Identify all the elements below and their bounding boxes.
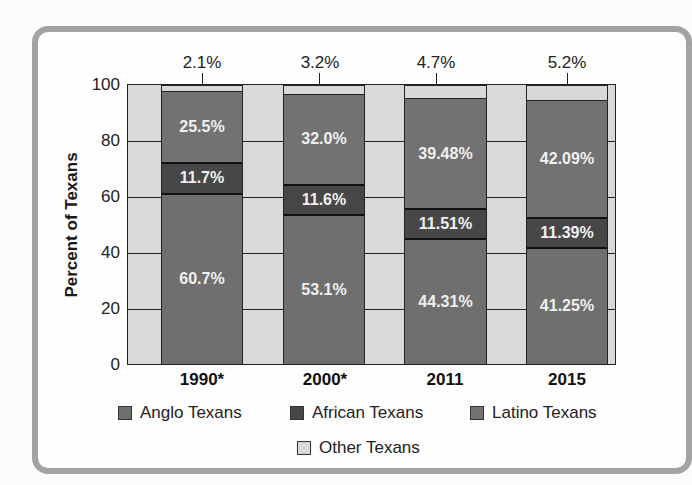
value-label: 41.25% <box>540 297 594 315</box>
x-label-2011: 2011 <box>400 370 490 390</box>
segment-anglo-2000: 53.1% <box>284 216 364 364</box>
value-label: 42.09% <box>540 150 594 168</box>
plot-area: 60.7% 11.7% 25.5% 53.1% 11.6% 32.0% 44.3… <box>127 84 616 365</box>
y-axis-label: Percent of Texans <box>62 125 82 325</box>
segment-latino-1990: 25.5% <box>162 91 242 162</box>
other-label-2011: 4.7% <box>396 53 476 73</box>
value-label: 60.7% <box>179 270 224 288</box>
segment-latino-2015: 42.09% <box>527 100 607 217</box>
other-leader-2000 <box>319 73 320 84</box>
segment-african-2011: 11.51% <box>405 208 486 240</box>
legend-label: Anglo Texans <box>140 403 242 423</box>
legend-other: Other Texans <box>297 438 420 458</box>
bar-1990: 60.7% 11.7% 25.5% <box>161 85 243 364</box>
other-label-1990: 2.1% <box>162 53 242 73</box>
legend-latino: Latino Texans <box>470 403 597 423</box>
bar-2015: 41.25% 11.39% 42.09% <box>526 85 608 364</box>
y-tick-60: 60 <box>80 187 120 207</box>
y-tick-40: 40 <box>80 243 120 263</box>
legend-label: Latino Texans <box>492 403 597 423</box>
other-label-2015: 5.2% <box>527 53 607 73</box>
segment-anglo-1990: 60.7% <box>162 195 242 364</box>
y-tick-100: 100 <box>80 75 120 95</box>
legend-label: African Texans <box>312 403 423 423</box>
value-label: 32.0% <box>301 130 346 148</box>
segment-african-2015: 11.39% <box>527 217 607 249</box>
y-tick-0: 0 <box>80 355 120 375</box>
other-leader-2011 <box>436 73 437 84</box>
legend-swatch-anglo <box>118 406 132 420</box>
segment-anglo-2015: 41.25% <box>527 249 607 364</box>
value-label: 11.51% <box>419 215 472 233</box>
x-label-2015: 2015 <box>522 370 612 390</box>
bar-2000: 53.1% 11.6% 32.0% <box>283 85 365 364</box>
legend-swatch-african <box>290 406 304 420</box>
segment-other-1990 <box>162 85 242 91</box>
value-label: 44.31% <box>418 293 472 311</box>
legend-label: Other Texans <box>319 438 420 458</box>
segment-other-2015 <box>527 85 607 100</box>
value-label: 53.1% <box>301 281 346 299</box>
y-tick-80: 80 <box>80 131 120 151</box>
value-label: 11.39% <box>540 224 593 242</box>
value-label: 25.5% <box>179 118 224 136</box>
x-label-1990: 1990* <box>157 370 247 390</box>
other-label-2000: 3.2% <box>280 53 360 73</box>
value-label: 39.48% <box>418 145 472 163</box>
value-label: 11.7% <box>180 169 224 187</box>
segment-anglo-2011: 44.31% <box>405 240 486 364</box>
bar-2011: 44.31% 11.51% 39.48% <box>404 85 487 364</box>
other-leader-2015 <box>567 73 568 84</box>
value-label: 11.6% <box>302 191 346 209</box>
legend-swatch-latino <box>470 406 484 420</box>
x-label-2000: 2000* <box>280 370 370 390</box>
segment-african-2000: 11.6% <box>284 184 364 216</box>
segment-latino-2000: 32.0% <box>284 94 364 183</box>
segment-other-2011 <box>405 85 486 98</box>
legend-anglo: Anglo Texans <box>118 403 242 423</box>
segment-other-2000 <box>284 85 364 94</box>
segment-african-1990: 11.7% <box>162 162 242 195</box>
legend-african: African Texans <box>290 403 423 423</box>
segment-latino-2011: 39.48% <box>405 98 486 208</box>
legend-swatch-other <box>297 441 311 455</box>
y-tick-20: 20 <box>80 299 120 319</box>
other-leader-1990 <box>202 73 203 84</box>
